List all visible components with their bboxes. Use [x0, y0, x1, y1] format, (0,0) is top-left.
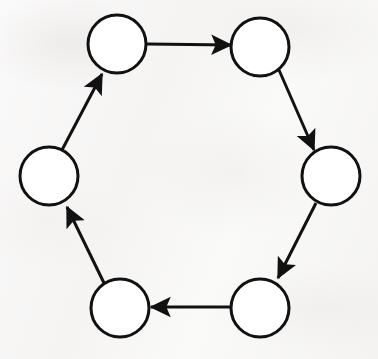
node-bottom-left[interactable] — [91, 279, 149, 337]
figure-canvas — [0, 0, 378, 359]
node-top-right[interactable] — [231, 18, 289, 76]
edge-top-right-to-right — [279, 70, 314, 150]
node-right[interactable] — [302, 147, 360, 205]
edge-bottom-left-to-left — [67, 207, 104, 283]
node-top-left[interactable] — [88, 15, 146, 73]
edge-top-left-to-top-right — [147, 44, 231, 45]
nodes-layer — [20, 15, 360, 337]
directed-cycle-graph — [0, 0, 378, 359]
edge-left-to-top-left — [62, 74, 102, 150]
edges-layer — [62, 44, 316, 307]
edge-right-to-bottom-right — [278, 203, 316, 278]
node-bottom-right[interactable] — [231, 279, 289, 337]
node-left[interactable] — [20, 147, 78, 205]
